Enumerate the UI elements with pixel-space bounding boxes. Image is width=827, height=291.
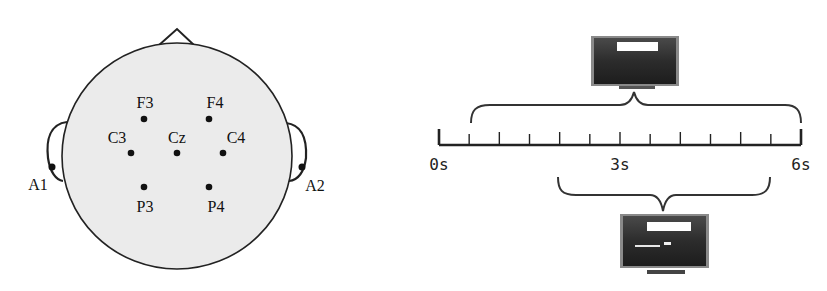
- electrode-label: P3: [137, 198, 154, 215]
- reference-label: A2: [305, 177, 325, 194]
- reference-label: A1: [28, 176, 48, 193]
- time-label: 0s: [429, 155, 448, 174]
- cue-monitor: [591, 36, 679, 89]
- reference-electrode-a2: [299, 164, 306, 171]
- electrode-label: P4: [208, 198, 225, 215]
- electrode-label: C4: [227, 129, 246, 146]
- electrode-cz: [174, 150, 181, 157]
- cue-text-bar: [617, 42, 658, 51]
- monitor-stand: [647, 270, 685, 274]
- time-label: 3s: [610, 155, 629, 174]
- electrode-label: Cz: [168, 129, 186, 146]
- reference-electrode-a1: [49, 164, 56, 171]
- electrode-c3: [128, 150, 135, 157]
- electrode-c4: [220, 150, 227, 157]
- electrode-p3: [141, 184, 148, 191]
- time-label: 6s: [791, 155, 810, 174]
- electrode-label: F4: [207, 94, 224, 111]
- figure: F3F4C3CzC4P3P4 A1A2 0s3s6s: [0, 0, 827, 291]
- electrode-label: C3: [108, 129, 127, 146]
- task-line: [635, 245, 660, 247]
- task-brace: [558, 177, 770, 211]
- electrode-f3: [141, 116, 148, 123]
- monitor-stand: [619, 86, 655, 89]
- task-text-bar: [647, 222, 691, 231]
- electrode-p4: [206, 184, 213, 191]
- task-marker: [664, 242, 671, 245]
- task-monitor: [620, 214, 709, 274]
- electrode-head-diagram: F3F4C3CzC4P3P4 A1A2: [28, 29, 325, 269]
- electrode-label: F3: [137, 94, 154, 111]
- electrode-f4: [206, 116, 213, 123]
- cue-brace: [471, 92, 801, 123]
- timeline-diagram: 0s3s6s: [429, 36, 810, 274]
- time-axis: 0s3s6s: [429, 129, 810, 174]
